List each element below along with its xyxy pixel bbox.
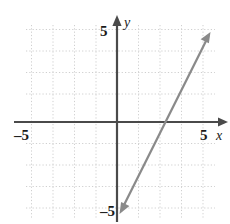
y-axis bbox=[112, 15, 121, 222]
y-axis-tick-label-negative-5: –5 bbox=[100, 204, 115, 219]
x-axis-tick-label-5: 5 bbox=[200, 128, 208, 143]
y-axis-name-label: y bbox=[124, 16, 130, 30]
coordinate-plane-svg bbox=[0, 0, 230, 224]
grid-horizontal-lines bbox=[26, 30, 215, 209]
y-axis-tick-label-5: 5 bbox=[100, 24, 108, 39]
x-axis bbox=[14, 117, 228, 126]
graph-figure: 5 –5 5 –5 y x bbox=[0, 0, 230, 224]
x-axis-tick-label-negative-5: –5 bbox=[14, 128, 29, 143]
x-axis-name-label: x bbox=[216, 129, 222, 143]
